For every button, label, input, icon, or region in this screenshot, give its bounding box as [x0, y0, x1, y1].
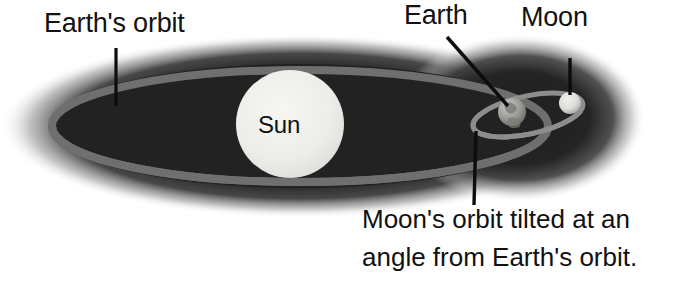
moon-orbit-caption: Moon's orbit tilted at an angle from Ear…: [362, 200, 637, 277]
label-moon: Moon: [521, 4, 588, 31]
caption-line-1: Moon's orbit tilted at an: [362, 200, 637, 238]
orbit-diagram: Earth's orbit Earth Moon Sun Moon's orbi…: [0, 0, 694, 300]
label-earth: Earth: [404, 2, 468, 29]
moon-body: [559, 92, 581, 114]
label-earths-orbit: Earth's orbit: [44, 10, 185, 37]
label-sun: Sun: [258, 113, 300, 137]
caption-line-2: angle from Earth's orbit.: [362, 238, 637, 276]
moon-orbit-leader-line: [474, 131, 476, 205]
